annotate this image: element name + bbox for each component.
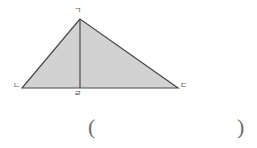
vertex-label-bottom-right: ㄷ — [180, 82, 187, 90]
triangle-shape — [22, 19, 178, 88]
answer-blank[interactable] — [100, 112, 234, 142]
answer-row: ( ) — [0, 112, 257, 148]
geometry-figure: ㄱ ㄴ ㄷ ㄹ — [0, 0, 257, 110]
close-paren: ) — [237, 112, 244, 142]
open-paren: ( — [88, 112, 95, 142]
vertex-label-altitude-foot: ㄹ — [74, 90, 81, 98]
vertex-label-apex: ㄱ — [74, 7, 81, 15]
vertex-label-bottom-left: ㄴ — [13, 82, 20, 90]
triangle-diagram — [0, 0, 257, 110]
